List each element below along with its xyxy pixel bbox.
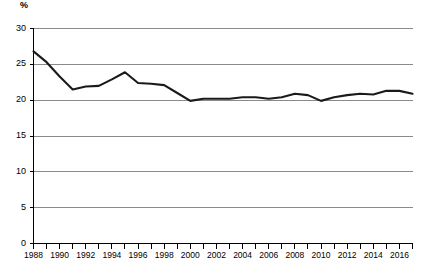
chart-plot-area — [0, 0, 426, 266]
x-axis-tick-label: 2016 — [382, 251, 416, 260]
y-axis-tick-label: 10 — [2, 167, 26, 176]
line-chart: % 30252015105019881990199219941996199820… — [0, 0, 426, 266]
y-axis-tick-label: 5 — [2, 203, 26, 212]
y-axis-tick-label: 30 — [2, 24, 26, 33]
y-axis-tick-label: 15 — [2, 131, 26, 140]
y-axis-tick-label: 20 — [2, 95, 26, 104]
y-axis-tick-label: 25 — [2, 59, 26, 68]
data-series-line — [34, 51, 413, 100]
y-axis-tick-label: 0 — [2, 239, 26, 248]
